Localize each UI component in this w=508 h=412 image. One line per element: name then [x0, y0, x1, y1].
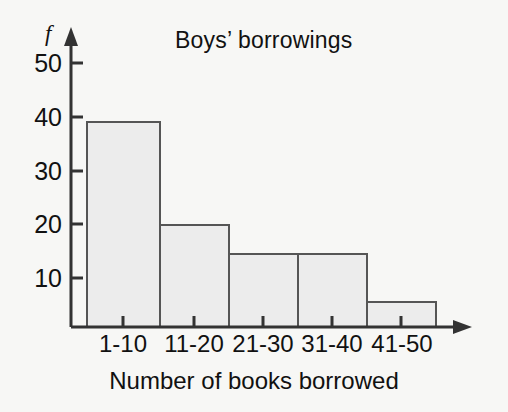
x-axis-title: Number of books borrowed [50, 369, 458, 393]
x-axis-arrowhead [453, 320, 472, 334]
bar-11-20 [160, 225, 229, 327]
y-tick-label-50: 50 [20, 51, 62, 76]
y-ticks [71, 63, 83, 278]
y-tick-label-10: 10 [20, 266, 62, 291]
y-axis-arrowhead [64, 27, 78, 46]
bars-group [87, 122, 436, 327]
histogram-chart: Boys’ borrowings f 50 40 30 20 10 1-10 1… [0, 0, 508, 412]
y-tick-label-30: 30 [20, 159, 62, 184]
y-tick-label-40: 40 [20, 105, 62, 130]
y-axis-label: f [45, 22, 51, 45]
bar-1-10 [87, 122, 160, 327]
x-tick-label-41-50: 41-50 [357, 332, 447, 356]
y-tick-label-20: 20 [20, 212, 62, 237]
chart-title: Boys’ borrowings [175, 29, 352, 52]
